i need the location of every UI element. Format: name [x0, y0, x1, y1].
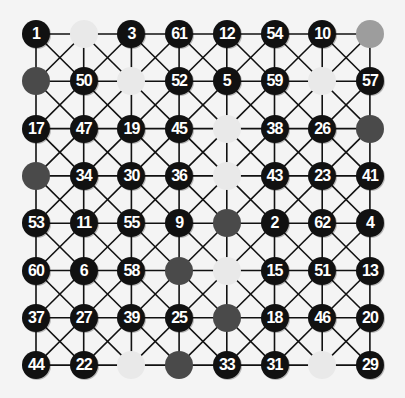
- number-node[interactable]: 46: [308, 304, 336, 332]
- empty-circle[interactable]: [308, 351, 336, 379]
- dark-circle[interactable]: [22, 162, 50, 190]
- number-node[interactable]: 60: [22, 257, 50, 285]
- grid-lines: [0, 0, 405, 398]
- number-node[interactable]: 43: [261, 162, 289, 190]
- number-node[interactable]: 39: [117, 304, 145, 332]
- empty-circle[interactable]: [70, 20, 98, 48]
- number-node[interactable]: 41: [356, 162, 384, 190]
- number-node[interactable]: 47: [70, 115, 98, 143]
- dark-circle[interactable]: [213, 209, 241, 237]
- empty-circle[interactable]: [213, 162, 241, 190]
- number-node[interactable]: 2: [261, 209, 289, 237]
- number-node[interactable]: 10: [308, 20, 336, 48]
- dark-circle[interactable]: [22, 67, 50, 95]
- number-node[interactable]: 11: [70, 209, 98, 237]
- number-node[interactable]: 62: [308, 209, 336, 237]
- number-node[interactable]: 45: [165, 115, 193, 143]
- number-node[interactable]: 30: [117, 162, 145, 190]
- dark-circle[interactable]: [165, 351, 193, 379]
- number-node[interactable]: 18: [261, 304, 289, 332]
- number-node[interactable]: 34: [70, 162, 98, 190]
- number-node[interactable]: 59: [261, 67, 289, 95]
- number-node[interactable]: 38: [261, 115, 289, 143]
- number-node[interactable]: 52: [165, 67, 193, 95]
- number-node[interactable]: 36: [165, 162, 193, 190]
- number-node[interactable]: 13: [356, 257, 384, 285]
- number-node[interactable]: 50: [70, 67, 98, 95]
- number-node[interactable]: 55: [117, 209, 145, 237]
- empty-circle[interactable]: [117, 351, 145, 379]
- number-node[interactable]: 33: [213, 351, 241, 379]
- number-node[interactable]: 12: [213, 20, 241, 48]
- number-node[interactable]: 51: [308, 257, 336, 285]
- number-node[interactable]: 20: [356, 304, 384, 332]
- dark-circle[interactable]: [356, 115, 384, 143]
- number-node[interactable]: 44: [22, 351, 50, 379]
- empty-circle[interactable]: [117, 67, 145, 95]
- number-node[interactable]: 17: [22, 115, 50, 143]
- number-node[interactable]: 53: [22, 209, 50, 237]
- puzzle-board: 1361125410505255957174719453826343036432…: [0, 0, 405, 398]
- number-node[interactable]: 3: [117, 20, 145, 48]
- number-node[interactable]: 25: [165, 304, 193, 332]
- number-node[interactable]: 4: [356, 209, 384, 237]
- number-node[interactable]: 1: [22, 20, 50, 48]
- number-node[interactable]: 9: [165, 209, 193, 237]
- dark-circle[interactable]: [165, 257, 193, 285]
- number-node[interactable]: 29: [356, 351, 384, 379]
- number-node[interactable]: 54: [261, 20, 289, 48]
- number-node[interactable]: 6: [70, 257, 98, 285]
- number-node[interactable]: 22: [70, 351, 98, 379]
- empty-circle[interactable]: [308, 67, 336, 95]
- number-node[interactable]: 15: [261, 257, 289, 285]
- number-node[interactable]: 58: [117, 257, 145, 285]
- number-node[interactable]: 31: [261, 351, 289, 379]
- number-node[interactable]: 37: [22, 304, 50, 332]
- gray-circle[interactable]: [356, 20, 384, 48]
- number-node[interactable]: 19: [117, 115, 145, 143]
- number-node[interactable]: 57: [356, 67, 384, 95]
- empty-circle[interactable]: [213, 115, 241, 143]
- number-node[interactable]: 27: [70, 304, 98, 332]
- number-node[interactable]: 26: [308, 115, 336, 143]
- number-node[interactable]: 5: [213, 67, 241, 95]
- number-node[interactable]: 23: [308, 162, 336, 190]
- dark-circle[interactable]: [213, 304, 241, 332]
- number-node[interactable]: 61: [165, 20, 193, 48]
- empty-circle[interactable]: [213, 257, 241, 285]
